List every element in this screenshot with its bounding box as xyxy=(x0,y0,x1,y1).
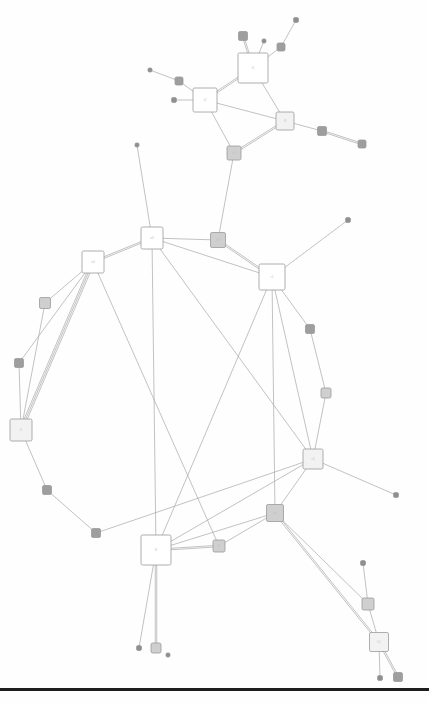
graph-edge xyxy=(156,277,272,550)
node-shape[interactable] xyxy=(361,561,366,566)
graph-edge xyxy=(310,329,326,393)
graph-node[interactable]: e3 xyxy=(141,227,163,249)
node-shape[interactable] xyxy=(294,18,299,23)
graph-node[interactable] xyxy=(321,388,331,398)
node-shape[interactable] xyxy=(213,540,225,552)
graph-node[interactable] xyxy=(361,561,366,566)
graph-edge xyxy=(276,513,380,642)
node-shape[interactable] xyxy=(239,32,248,41)
graph-node[interactable] xyxy=(262,39,266,43)
graph-edge xyxy=(137,145,152,238)
graph-node[interactable]: l1 xyxy=(10,419,32,441)
node-shape[interactable] xyxy=(378,676,383,681)
graph-node[interactable] xyxy=(137,646,142,651)
node-shape[interactable] xyxy=(211,233,226,248)
graph-node[interactable] xyxy=(346,218,351,223)
node-shape[interactable] xyxy=(358,140,366,148)
node-shape[interactable] xyxy=(137,646,142,651)
graph-node[interactable]: t3 xyxy=(276,112,294,130)
node-shape[interactable] xyxy=(394,493,399,498)
node-shape[interactable] xyxy=(193,88,217,112)
graph-edge xyxy=(272,277,313,459)
graph-edge xyxy=(22,263,94,431)
node-shape[interactable] xyxy=(276,112,294,130)
graph-node[interactable]: b1 xyxy=(213,540,225,552)
node-shape[interactable] xyxy=(82,251,104,273)
graph-node[interactable] xyxy=(239,32,248,41)
node-shape[interactable] xyxy=(166,653,170,657)
node-shape[interactable] xyxy=(151,643,161,653)
node-shape[interactable] xyxy=(267,505,284,522)
node-shape[interactable] xyxy=(346,218,351,223)
graph-edge xyxy=(313,459,396,495)
node-shape[interactable] xyxy=(394,673,403,682)
node-shape[interactable] xyxy=(40,298,51,309)
graph-node[interactable]: b4 xyxy=(267,505,284,522)
graph-node[interactable] xyxy=(277,43,285,51)
node-shape[interactable] xyxy=(43,486,52,495)
node-shape[interactable] xyxy=(259,264,285,290)
node-shape[interactable] xyxy=(303,449,323,469)
graph-node[interactable] xyxy=(318,127,327,136)
node-shape[interactable] xyxy=(238,53,268,83)
bottom-rule xyxy=(0,688,429,691)
graph-edge xyxy=(152,238,156,550)
network-graph[interactable]: t1t2t3e0e3e4e8r1l1r4b4f1b1k1 xyxy=(0,0,429,703)
graph-edge xyxy=(152,238,313,459)
graph-node[interactable] xyxy=(151,643,161,653)
graph-canvas: t1t2t3e0e3e4e8r1l1r4b4f1b1k1 xyxy=(0,0,429,703)
graph-node[interactable]: e0 xyxy=(227,146,241,160)
graph-node[interactable] xyxy=(135,143,139,147)
graph-node[interactable] xyxy=(43,486,52,495)
node-shape[interactable] xyxy=(172,98,177,103)
node-shape[interactable] xyxy=(277,43,285,51)
graph-edge xyxy=(274,513,378,642)
graph-node[interactable] xyxy=(362,598,374,610)
graph-node[interactable] xyxy=(40,298,51,309)
node-shape[interactable] xyxy=(175,77,183,85)
node-layer: t1t2t3e0e3e4e8r1l1r4b4f1b1k1 xyxy=(10,18,403,682)
node-shape[interactable] xyxy=(15,359,24,368)
graph-edge xyxy=(322,130,362,143)
node-shape[interactable] xyxy=(370,633,389,652)
graph-edge xyxy=(322,132,362,145)
node-shape[interactable] xyxy=(318,127,327,136)
graph-node[interactable] xyxy=(394,493,399,498)
graph-node[interactable]: t1 xyxy=(238,53,268,83)
node-shape[interactable] xyxy=(306,325,315,334)
node-shape[interactable] xyxy=(321,388,331,398)
node-shape[interactable] xyxy=(10,419,32,441)
graph-node[interactable] xyxy=(175,77,183,85)
node-shape[interactable] xyxy=(135,143,139,147)
graph-node[interactable] xyxy=(358,140,366,148)
graph-node[interactable]: e4 xyxy=(82,251,104,273)
graph-edge xyxy=(20,261,92,429)
node-shape[interactable] xyxy=(148,68,152,72)
graph-node[interactable] xyxy=(172,98,177,103)
graph-node[interactable]: r4 xyxy=(303,449,323,469)
graph-node[interactable]: r1 xyxy=(259,264,285,290)
graph-node[interactable] xyxy=(394,673,403,682)
graph-node[interactable]: k1 xyxy=(370,633,389,652)
graph-node[interactable] xyxy=(378,676,383,681)
graph-edge xyxy=(275,513,368,604)
graph-node[interactable] xyxy=(306,325,315,334)
node-shape[interactable] xyxy=(141,227,163,249)
node-shape[interactable] xyxy=(227,146,241,160)
graph-node[interactable] xyxy=(166,653,170,657)
graph-node[interactable] xyxy=(294,18,299,23)
graph-node[interactable]: e8 xyxy=(211,233,226,248)
node-shape[interactable] xyxy=(141,535,171,565)
graph-edge xyxy=(21,303,45,430)
node-shape[interactable] xyxy=(92,529,101,538)
graph-node[interactable] xyxy=(15,359,24,368)
graph-node[interactable]: f1 xyxy=(141,535,171,565)
graph-node[interactable] xyxy=(92,529,101,538)
graph-node[interactable]: t2 xyxy=(193,88,217,112)
graph-edge xyxy=(218,153,234,240)
edge-layer xyxy=(19,20,399,678)
node-shape[interactable] xyxy=(362,598,374,610)
graph-node[interactable] xyxy=(148,68,152,72)
graph-edge xyxy=(47,490,96,533)
node-shape[interactable] xyxy=(262,39,266,43)
